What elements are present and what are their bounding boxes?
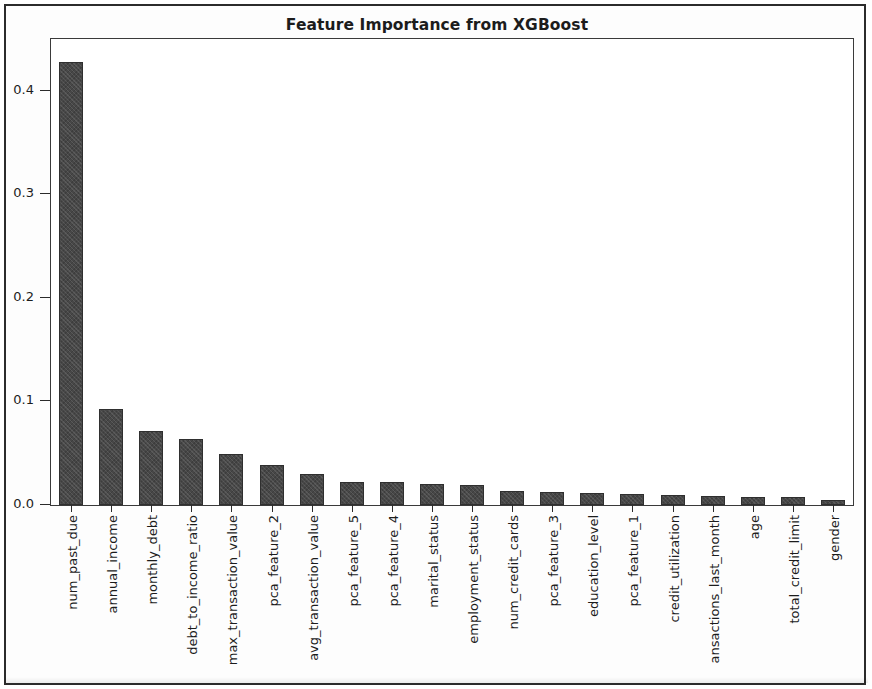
x-axis-tick-label: employment_status [467, 515, 480, 644]
x-axis-tick-label: education_level [587, 515, 600, 617]
x-axis-tick-label: gender [828, 515, 841, 561]
bar [701, 496, 725, 505]
bar [821, 500, 845, 505]
x-axis-tick [151, 505, 152, 512]
x-axis-tick [713, 505, 714, 512]
x-axis-tick-label: age [748, 515, 761, 539]
bar [219, 454, 243, 505]
x-axis-tick-label: pca_feature_2 [267, 515, 280, 607]
x-axis-tick [753, 505, 754, 512]
x-axis-tick-label: credit_utilization [668, 515, 681, 623]
x-axis-tick [833, 505, 834, 512]
y-axis-tick: 0.3 [40, 193, 50, 194]
x-axis-tick [231, 505, 232, 512]
bar [99, 409, 123, 505]
bar [260, 465, 284, 505]
bar [741, 497, 765, 505]
bar [380, 482, 404, 505]
y-axis-tick: 0.2 [40, 297, 50, 298]
chart-title: Feature Importance from XGBoost [6, 16, 868, 34]
x-axis-tick-label: num_credit_cards [507, 515, 520, 630]
x-axis-tick [512, 505, 513, 512]
x-axis-tick-label: pca_feature_3 [547, 515, 560, 607]
x-axis-tick-label: max_transaction_value [226, 515, 239, 665]
x-axis-tick-label: pca_feature_4 [387, 515, 400, 607]
x-axis-tick [312, 505, 313, 512]
bar [620, 494, 644, 505]
x-axis-tick [472, 505, 473, 512]
x-axis-tick [392, 505, 393, 512]
x-axis-tick-label: pca_feature_5 [347, 515, 360, 607]
y-axis-tick-label: 0.3 [13, 185, 34, 200]
plot-area: 0.00.10.20.30.4 num_past_dueannual_incom… [50, 38, 854, 506]
bar [59, 62, 83, 505]
y-axis-tick: 0.4 [40, 90, 50, 91]
scan-shading [6, 677, 868, 683]
x-axis-tick [111, 505, 112, 512]
y-axis-tick: 0.0 [40, 504, 50, 505]
figure-frame: Feature Importance from XGBoost 0.00.10.… [4, 4, 866, 685]
bar [540, 492, 564, 505]
bar [179, 439, 203, 505]
x-axis-tick [592, 505, 593, 512]
x-axis-tick-label: num_past_due [66, 515, 79, 610]
x-axis-tick-label: monthly_debt [146, 515, 159, 605]
x-axis-tick [71, 505, 72, 512]
bar [460, 485, 484, 505]
x-axis-tick [432, 505, 433, 512]
x-axis-tick [793, 505, 794, 512]
y-axis-tick-label: 0.1 [13, 392, 34, 407]
x-axis-tick-label: avg_transaction_value [307, 515, 320, 661]
x-axis-tick [352, 505, 353, 512]
x-axis-tick-label: total_credit_limit [788, 515, 801, 624]
x-axis-tick [552, 505, 553, 512]
x-axis-tick [632, 505, 633, 512]
bar [580, 493, 604, 505]
y-axis-tick-label: 0.0 [13, 496, 34, 511]
bar [661, 495, 685, 505]
x-axis-tick-label: debt_to_income_ratio [186, 515, 199, 655]
bar [300, 474, 324, 505]
x-axis-tick [272, 505, 273, 512]
bar [781, 497, 805, 505]
bar [139, 431, 163, 505]
bar [500, 491, 524, 505]
x-axis-tick-label: annual_income [106, 515, 119, 613]
x-axis-tick [673, 505, 674, 512]
y-axis-tick-label: 0.2 [13, 289, 34, 304]
x-axis-tick-label: ansactions_last_month [708, 515, 721, 663]
y-axis-tick: 0.1 [40, 400, 50, 401]
bar [420, 484, 444, 505]
x-axis-tick-label: marital_status [427, 515, 440, 608]
x-axis-tick-label: pca_feature_1 [627, 515, 640, 607]
x-axis-tick [191, 505, 192, 512]
bar [340, 482, 364, 505]
y-axis-tick-label: 0.4 [13, 82, 34, 97]
